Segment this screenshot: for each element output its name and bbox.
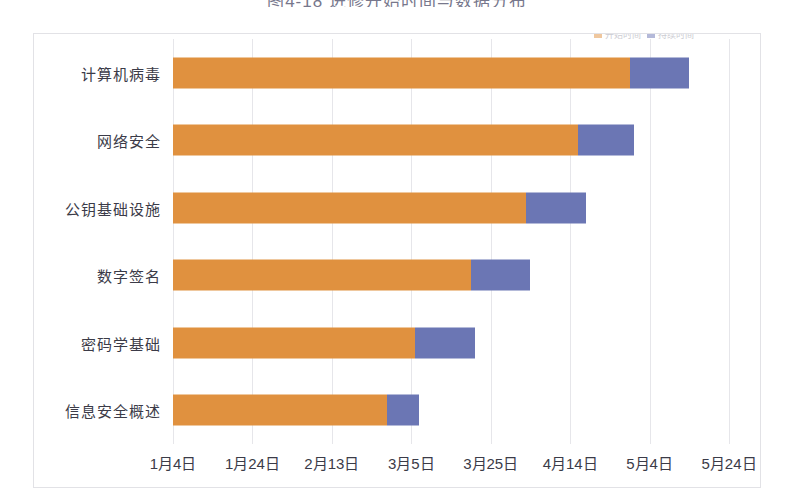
bar-segment-duration[interactable] (415, 327, 475, 358)
bar-segment-duration[interactable] (630, 57, 690, 88)
bar-segment-offset[interactable] (173, 327, 415, 358)
x-tick-label: 3月25日 (463, 452, 518, 473)
x-tick-label: 5月24日 (701, 452, 756, 473)
x-tick-label: 5月4日 (626, 452, 673, 473)
bar-segment-duration[interactable] (471, 260, 531, 291)
x-tick-label: 1月24日 (225, 452, 280, 473)
bar-segment-duration[interactable] (387, 395, 419, 426)
category-label: 密码学基础 (81, 332, 161, 353)
plot-area: 计算机病毒网络安全公钥基础设施数字签名密码学基础信息安全概述 (173, 39, 729, 444)
chart-frame: 开始时间 持续时间 计算机病毒网络安全公钥基础设施数字签名密码学基础信息安全概述… (33, 33, 761, 488)
bar-segment-offset[interactable] (173, 395, 387, 426)
chart-row: 计算机病毒 (173, 39, 729, 107)
chart-row: 密码学基础 (173, 309, 729, 377)
bar-segment-duration[interactable] (526, 192, 586, 223)
bar-segment-duration[interactable] (578, 125, 634, 156)
gridline (729, 39, 730, 444)
legend-swatch-duration-icon (647, 33, 655, 38)
x-tick-label: 3月5日 (388, 452, 435, 473)
category-label: 网络安全 (97, 130, 161, 151)
category-label: 公钥基础设施 (65, 197, 161, 218)
chart-row: 公钥基础设施 (173, 174, 729, 242)
legend-swatch-start-icon (594, 33, 602, 38)
x-tick-label: 4月14日 (543, 452, 598, 473)
x-tick-label: 2月13日 (304, 452, 359, 473)
x-axis: 1月4日1月24日2月13日3月5日3月25日4月14日5月4日5月24日 (173, 452, 729, 482)
chart-row: 信息安全概述 (173, 377, 729, 445)
category-label: 数字签名 (97, 265, 161, 286)
x-tick-label: 1月4日 (150, 452, 197, 473)
category-label: 信息安全概述 (65, 400, 161, 421)
bar-segment-offset[interactable] (173, 125, 578, 156)
bar-segment-offset[interactable] (173, 192, 526, 223)
chart-row: 网络安全 (173, 107, 729, 175)
figure-caption: 图4-18 进修开始时间与数据分布 (0, 0, 794, 7)
chart-row: 数字签名 (173, 242, 729, 310)
category-label: 计算机病毒 (81, 62, 161, 83)
bar-segment-offset[interactable] (173, 260, 471, 291)
bar-segment-offset[interactable] (173, 57, 630, 88)
